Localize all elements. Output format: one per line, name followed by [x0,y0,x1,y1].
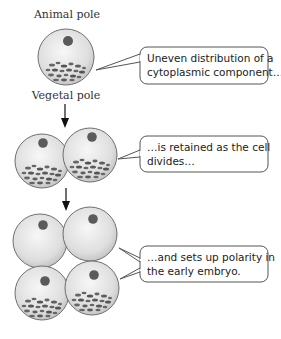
callout-1: Uneven distribution of a cytoplasmic com… [96,47,281,84]
vegetal-pole-label: Vegetal pole [31,89,101,102]
nucleus [63,36,73,46]
cell-four-cell-bottom-right [65,261,119,315]
callout-1-line-1: Uneven distribution of a [147,52,274,64]
cell-four-cell-top-left [13,214,67,268]
cell-four-cell-top-right [63,207,117,261]
callout-3: …and sets up polarity in the early embry… [119,246,275,282]
nucleus [88,214,98,224]
callout-2-line-1: …is retained as the cell [147,141,270,153]
animal-pole-label: Animal pole [33,8,100,21]
callout-3-line-1: …and sets up polarity in [147,251,275,263]
nucleus [38,220,48,230]
nucleus [89,270,99,280]
cell-one-cell-stage [38,29,94,85]
callout-3-line-2: the early embryo. [147,265,241,277]
callout-1-line-2: cytoplasmic component… [147,66,281,78]
cell-four-cell-bottom-left [15,266,69,320]
cell-two-cell-left [15,134,69,188]
nucleus [40,276,50,286]
callout-2-line-2: divides… [147,155,195,167]
arrow-down-icon [61,104,69,128]
cell-two-cell-right [63,128,117,182]
nucleus [38,138,48,148]
polarity-diagram: Animal pole Vegetal pole Uneven distribu… [0,0,281,339]
arrow-down-icon [62,188,70,211]
callout-2: …is retained as the cell divides… [118,136,270,172]
nucleus [87,132,97,142]
